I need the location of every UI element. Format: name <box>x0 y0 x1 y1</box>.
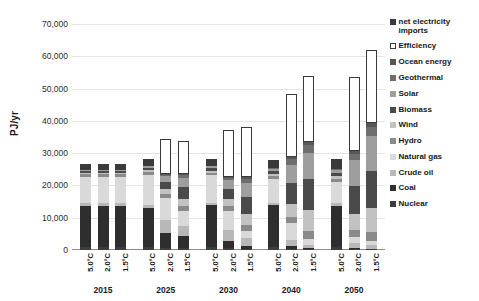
legend-swatch-icon <box>390 138 396 144</box>
stacked-bar[interactable] <box>303 76 314 250</box>
scenario-label-row: 5.0°C2.0°C1.5°C <box>268 252 314 284</box>
bar-segment-efficiency <box>349 77 360 151</box>
bar-segment-coal <box>178 236 189 248</box>
bar-segment-natural-gas <box>143 175 154 205</box>
scenario-tick-label: 1.5°C <box>246 253 255 272</box>
scenario-tick-label: 5.0°C <box>86 253 95 272</box>
legend-swatch-icon <box>390 43 396 49</box>
legend-label: net electricity imports <box>399 18 479 35</box>
scenario-tick: 2.0°C <box>223 252 234 284</box>
legend-swatch-icon <box>390 75 396 81</box>
x-axis-group-2025: 5.0°C2.0°C1.5°C2025 <box>143 252 189 301</box>
scenario-tick-label: 1.5°C <box>183 253 192 272</box>
bar-segment-nuclear <box>160 248 171 250</box>
scenario-tick: 1.5°C <box>178 252 189 284</box>
bar-segment-biomass <box>178 187 189 199</box>
bar-segment-nuclear <box>303 249 314 250</box>
stacked-bar[interactable] <box>206 159 217 250</box>
bar-segment-net-electricity-imports <box>206 159 217 166</box>
stacked-bar[interactable] <box>223 130 234 250</box>
stacked-bar[interactable] <box>115 164 126 250</box>
y-axis-tick: 10,000 <box>6 213 68 223</box>
x-axis-group-2040: 5.0°C2.0°C1.5°C2040 <box>268 252 314 301</box>
scenario-tick: 1.5°C <box>115 252 126 284</box>
stacked-bar[interactable] <box>331 159 342 250</box>
stacked-bar[interactable] <box>241 127 252 250</box>
bar-segment-net-electricity-imports <box>331 159 342 169</box>
stacked-bar[interactable] <box>286 94 297 250</box>
bar-segment-efficiency <box>303 76 314 142</box>
scenario-tick-label: 2.0°C <box>229 253 238 272</box>
bar-segment-crude-oil <box>241 238 252 246</box>
scenario-tick-label: 1.5°C <box>309 253 318 272</box>
y-axis-tick-labels: 70,00060,00050,00040,00030,00020,00010,0… <box>0 0 68 301</box>
legend-item-ocean-energy[interactable]: Ocean energy <box>390 58 479 67</box>
stacked-bar[interactable] <box>268 160 279 250</box>
legend-item-natural-gas[interactable]: Natural gas <box>390 153 479 162</box>
legend-swatch-icon <box>390 185 396 191</box>
y-axis-tick: 70,000 <box>6 19 68 29</box>
year-label: 2015 <box>80 285 126 295</box>
scenario-tick-label: 2.0°C <box>103 253 112 272</box>
y-axis-tick: 30,000 <box>6 148 68 158</box>
legend-item-geothermal[interactable]: Geothermal <box>390 74 479 83</box>
legend-item-net-electricity-imports[interactable]: net electricity imports <box>390 18 479 35</box>
legend-item-solar[interactable]: Solar <box>390 90 479 99</box>
y-axis-tick: 50,000 <box>6 84 68 94</box>
stacked-bar[interactable] <box>366 50 377 250</box>
legend-swatch-icon <box>390 107 396 113</box>
bar-segment-nuclear <box>206 247 217 250</box>
scenario-tick: 2.0°C <box>98 252 109 284</box>
bar-segment-solar <box>366 136 377 171</box>
scenario-tick: 1.5°C <box>303 252 314 284</box>
legend-item-coal[interactable]: Coal <box>390 184 479 193</box>
legend-item-biomass[interactable]: Biomass <box>390 106 479 115</box>
bar-segment-efficiency <box>366 50 377 123</box>
legend-swatch-icon <box>390 122 396 128</box>
bar-segment-crude-oil <box>160 220 171 233</box>
legend-swatch-icon <box>390 91 396 97</box>
bar-segment-coal <box>223 241 234 248</box>
legend-label: Wind <box>399 121 418 130</box>
y-axis-tick: 20,000 <box>6 180 68 190</box>
stacked-bar[interactable] <box>160 139 171 250</box>
scenario-tick: 5.0°C <box>331 252 342 284</box>
scenario-label-row: 5.0°C2.0°C1.5°C <box>206 252 252 284</box>
stacked-bar[interactable] <box>349 77 360 250</box>
bar-segment-efficiency <box>241 127 252 177</box>
year-label: 2030 <box>206 285 252 295</box>
scenario-tick: 2.0°C <box>286 252 297 284</box>
legend-label: Crude oil <box>399 169 434 178</box>
bar-segment-wind <box>303 210 314 231</box>
legend-swatch-icon <box>390 170 396 176</box>
scenario-tick-label: 5.0°C <box>337 253 346 272</box>
stacked-bar[interactable] <box>80 164 91 250</box>
bar-segment-nuclear <box>366 249 377 250</box>
year-label: 2025 <box>143 285 189 295</box>
bar-segment-natural-gas <box>331 182 342 204</box>
bar-segment-coal <box>115 206 126 247</box>
bar-segment-net-electricity-imports <box>268 160 279 168</box>
bar-segment-hydro <box>349 230 360 237</box>
legend-item-efficiency[interactable]: Efficiency <box>390 42 479 51</box>
stacked-bar[interactable] <box>178 141 189 250</box>
bar-segment-coal <box>143 208 154 247</box>
legend-item-crude-oil[interactable]: Crude oil <box>390 169 479 178</box>
bar-segment-efficiency <box>178 141 189 174</box>
legend-item-wind[interactable]: Wind <box>390 121 479 130</box>
legend-label: Efficiency <box>399 42 437 51</box>
stacked-bar[interactable] <box>143 159 154 250</box>
scenario-tick-label: 5.0°C <box>274 253 283 272</box>
bar-segment-crude-oil <box>178 226 189 236</box>
bar-segment-nuclear <box>115 247 126 250</box>
legend-item-hydro[interactable]: Hydro <box>390 137 479 146</box>
bar-segment-wind <box>178 199 189 206</box>
y-axis-tick: 0 <box>6 245 68 255</box>
bar-segment-nuclear <box>349 249 360 250</box>
scenario-tick-label: 2.0°C <box>354 253 363 272</box>
legend-item-nuclear[interactable]: Nuclear <box>390 200 479 209</box>
y-axis-tick: 60,000 <box>6 51 68 61</box>
bar-segment-wind <box>366 208 377 232</box>
bar-segment-natural-gas <box>80 177 91 203</box>
stacked-bar[interactable] <box>98 164 109 250</box>
